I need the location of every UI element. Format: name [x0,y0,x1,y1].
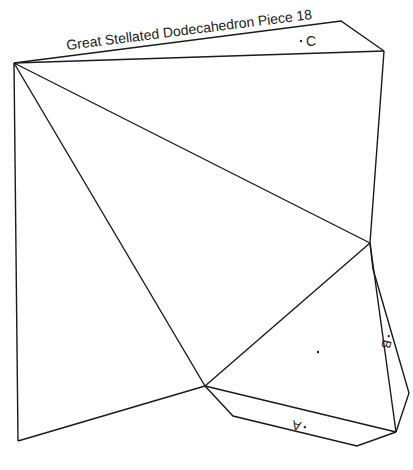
edge-p1-p2 [14,51,384,63]
edge-p1-p5 [14,63,18,441]
net-diagram: Great Stellated Dodecahedron Piece 18 C … [0,0,413,470]
edge-p4-p5 [18,386,205,441]
edge-p3-p4 [205,243,370,386]
tab-b-outline [370,243,409,432]
edge-p3-p6 [370,243,396,432]
center-dot [317,351,319,353]
label-c-dot [300,40,302,42]
label-b-dot [387,335,390,338]
tab-a-outline [205,386,396,446]
label-c: C [306,33,316,49]
label-b: B [378,338,395,350]
label-a: A [290,417,302,434]
label-a-dot [303,426,306,429]
edge-p2-p3 [370,51,384,243]
